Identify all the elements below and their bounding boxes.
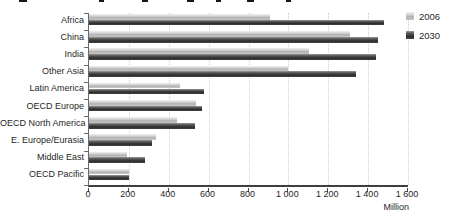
- clipped-title-fragment: [99, 0, 104, 2]
- x-tick-label: 200: [120, 189, 135, 199]
- bar-row-other-asia: [89, 65, 408, 82]
- bar-2006-6: [89, 117, 177, 123]
- y-axis-tick: [84, 185, 89, 186]
- category-label: OECD North America: [0, 117, 84, 130]
- bar-2006-5: [89, 100, 196, 106]
- category-label: OECD Europe: [0, 100, 84, 113]
- bar-2006-0: [89, 14, 270, 20]
- category-axis: AfricaChinaIndiaOther AsiaLatin AmericaO…: [0, 13, 84, 185]
- bar-2030-5: [89, 106, 202, 112]
- bar-row-oecd-pacific: [89, 168, 408, 185]
- bar-row-e-europe-eurasia: [89, 133, 408, 150]
- legend-label-2006: 2006: [419, 11, 440, 22]
- clipped-title-fragment: [142, 0, 148, 2]
- category-label: Latin America: [0, 82, 84, 95]
- x-tick-label: 600: [200, 189, 215, 199]
- population-bar-chart: AfricaChinaIndiaOther AsiaLatin AmericaO…: [0, 0, 449, 215]
- category-label: OECD Pacific: [0, 168, 84, 181]
- bar-2030-6: [89, 123, 195, 129]
- x-tick-label: 1 600: [396, 189, 419, 199]
- clipped-title-fragment: [19, 0, 27, 2]
- category-label: Middle East: [0, 151, 84, 164]
- bar-2030-8: [89, 157, 145, 163]
- x-tick-label: 800: [240, 189, 255, 199]
- bar-row-oecd-europe: [89, 99, 408, 116]
- bar-2006-2: [89, 48, 309, 54]
- bar-row-oecd-north-america: [89, 116, 408, 133]
- x-tick-label: 1 400: [356, 189, 379, 199]
- x-tick-label: 1 200: [316, 189, 339, 199]
- bar-2030-0: [89, 20, 384, 26]
- bar-2030-1: [89, 37, 378, 43]
- x-axis-unit-label: Million: [383, 202, 409, 212]
- bar-row-africa: [89, 13, 408, 30]
- bar-row-china: [89, 30, 408, 47]
- plot-area: [88, 13, 408, 187]
- bar-2006-1: [89, 31, 350, 37]
- bar-2006-3: [89, 66, 288, 72]
- bar-2030-2: [89, 54, 376, 60]
- bar-row-india: [89, 47, 408, 64]
- bar-2030-3: [89, 71, 356, 77]
- category-label: India: [0, 48, 84, 61]
- bar-2006-4: [89, 83, 180, 89]
- x-axis-tick-labels: 02004006008001 0001 2001 4001 600: [88, 189, 407, 201]
- clipped-title-fragment: [187, 0, 194, 2]
- bar-row-middle-east: [89, 151, 408, 168]
- category-label: Africa: [0, 14, 84, 27]
- x-tick-label: 1 000: [276, 189, 299, 199]
- clipped-title-fragment: [216, 0, 221, 2]
- bar-row-latin-america: [89, 82, 408, 99]
- clipped-title-fragment: [247, 0, 254, 2]
- bar-2030-4: [89, 89, 204, 95]
- bar-2030-9: [89, 175, 129, 181]
- x-tick-label: 400: [160, 189, 175, 199]
- legend-label-2030: 2030: [419, 30, 440, 41]
- category-label: China: [0, 31, 84, 44]
- category-label: E. Europe/Eurasia: [0, 134, 84, 147]
- bar-2030-7: [89, 140, 152, 146]
- bar-2006-9: [89, 169, 129, 175]
- clipped-title-fragment: [286, 0, 291, 2]
- bar-2006-8: [89, 152, 127, 158]
- x-tick-label: 0: [85, 189, 90, 199]
- bar-2006-7: [89, 134, 156, 140]
- category-label: Other Asia: [0, 65, 84, 78]
